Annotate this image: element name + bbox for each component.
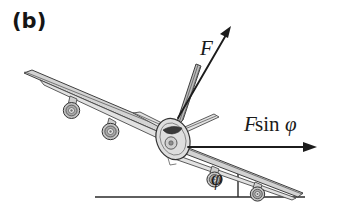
airplane-diagram-svg: (b) F F sin φ φ	[0, 0, 362, 221]
force-vector-label: F	[199, 36, 213, 60]
horizontal-component-label: F sin φ	[243, 112, 297, 136]
panel-label: (b)	[12, 9, 46, 33]
left-inboard-hub	[109, 130, 111, 132]
component-label-sin: sin	[255, 112, 280, 136]
figure-panel-b: (b) F F sin φ φ	[0, 0, 362, 221]
component-label-phi: φ	[285, 112, 297, 136]
right-outboard-hub	[257, 193, 259, 195]
bank-angle-label: φ	[211, 166, 223, 190]
left-outboard-hub	[70, 109, 72, 111]
nose-center	[169, 141, 173, 145]
